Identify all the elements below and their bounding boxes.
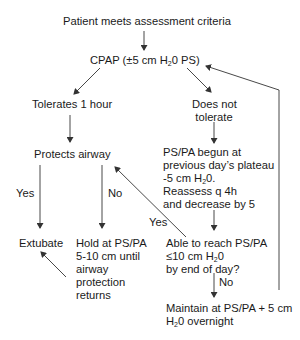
maintain-line-2-post: 0 overnight xyxy=(178,315,233,327)
arrow-cpap-to-not-tolerate xyxy=(187,68,211,92)
node-maintain: Maintain at PS/PA + 5 cm H20 overnight xyxy=(166,302,292,328)
not-tolerate-line-2: tolerate xyxy=(192,111,236,124)
node-extubate: Extubate xyxy=(19,237,63,250)
hold-line-4: protection xyxy=(76,276,147,289)
node-hold: Hold at PS/PA 5-10 cm until airway prote… xyxy=(76,237,147,302)
not-tolerate-line-1: Does not xyxy=(192,98,236,111)
node-tolerates: Tolerates 1 hour xyxy=(32,98,112,111)
node-cpap: CPAP (±5 cm H20 PS) xyxy=(90,54,200,67)
cpap-text-post: 0 PS) xyxy=(172,54,200,66)
pspa-line-3: -5 cm H20. xyxy=(163,172,274,185)
able-line-2-post: 0 xyxy=(218,250,224,262)
able-line-2-pre: ≤10 cm H xyxy=(166,250,214,262)
pspa-line-4: Reassess q 4h xyxy=(163,185,274,198)
node-pspa-begun: PS/PA begun at previous day’s plateau -5… xyxy=(163,146,274,211)
node-protects-airway: Protects airway xyxy=(34,148,110,161)
edge-label-yes-mid: Yes xyxy=(149,216,167,229)
cpap-text-pre: CPAP (±5 cm H xyxy=(90,54,168,66)
hold-line-1: Hold at PS/PA xyxy=(76,237,147,250)
able-line-1: Able to reach PS/PA xyxy=(166,237,267,250)
maintain-line-1: Maintain at PS/PA + 5 cm xyxy=(166,302,292,315)
hold-line-5: returns xyxy=(76,289,147,302)
edge-label-no-right: No xyxy=(219,276,233,289)
node-does-not-tolerate: Does not tolerate xyxy=(192,98,236,124)
pspa-line-5: and decrease by 5 xyxy=(163,198,274,211)
pspa-line-3-pre: -5 cm H xyxy=(163,172,202,184)
pspa-line-3-post: 0. xyxy=(206,172,215,184)
edge-label-no-left: No xyxy=(108,187,122,200)
hold-line-3: airway xyxy=(76,263,147,276)
maintain-line-2-pre: H xyxy=(166,315,174,327)
node-start: Patient meets assessment criteria xyxy=(63,15,231,28)
hold-line-2: 5-10 cm until xyxy=(76,250,147,263)
arrow-cpap-to-tolerates xyxy=(74,68,100,94)
maintain-line-2: H20 overnight xyxy=(166,315,292,328)
pspa-line-2: previous day’s plateau xyxy=(163,159,274,172)
pspa-line-1: PS/PA begun at xyxy=(163,146,274,159)
able-line-3: by end of day? xyxy=(166,263,267,276)
node-able-to-reach: Able to reach PS/PA ≤10 cm H20 by end of… xyxy=(166,237,267,276)
able-line-2: ≤10 cm H20 xyxy=(166,250,267,263)
edge-label-yes-left: Yes xyxy=(16,187,34,200)
arrow-hold-to-extubate xyxy=(41,252,66,277)
